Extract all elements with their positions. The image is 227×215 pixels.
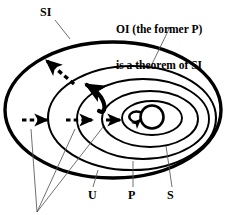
annotation-oi-theorem: OI (the former P) is a theorem of SI xyxy=(116,1,202,95)
loop-arrow-oi xyxy=(129,112,140,122)
leader-line-si xyxy=(55,20,70,39)
region-circle-oi xyxy=(141,106,164,129)
leader-line-arrow-1 xyxy=(31,129,37,212)
hooked-arrow-upleft xyxy=(87,85,104,112)
region-label-u: U xyxy=(88,189,97,201)
annotation-oi-line1: OI (the former P) xyxy=(116,24,202,36)
diagram-canvas: SI U P S OI (the former P) is a theorem … xyxy=(0,0,227,215)
region-label-si: SI xyxy=(40,6,51,18)
region-label-p: P xyxy=(128,189,135,201)
dashed-arrow-upleft xyxy=(47,61,74,84)
annotation-oi-line2: is a theorem of SI xyxy=(116,60,202,72)
region-label-s: S xyxy=(167,189,174,201)
